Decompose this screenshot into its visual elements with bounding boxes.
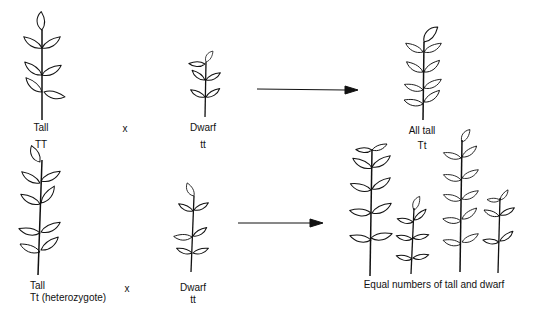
plant-tall-TT	[22, 11, 65, 120]
cross2-offspring-description: Equal numbers of tall and dwarf	[364, 279, 505, 291]
offspring-plant-dwarf-1	[396, 195, 429, 274]
cross1-parent1-phenotype: Tall	[33, 122, 48, 134]
cross1-parent2-genotype: tt	[200, 139, 206, 151]
plant-tall-Tt-heterozygote	[19, 145, 61, 275]
arrow-1-head	[345, 86, 358, 94]
cross1-offspring-genotype: Tt	[418, 140, 427, 152]
arrow-2-head	[310, 219, 323, 227]
plant-dwarf-tt-2	[174, 182, 209, 272]
plant-dwarf-tt	[189, 49, 221, 117]
cross2-parent1-phenotype: Tall	[30, 280, 45, 292]
cross1-parent1-genotype: TT	[35, 139, 47, 151]
diagram-drawing	[0, 0, 540, 314]
offspring-plant-tall-1	[350, 144, 392, 276]
offspring-plant-tall-2	[443, 128, 479, 272]
cross2-cross-symbol: x	[125, 283, 130, 295]
cross2-parent2-genotype: tt	[190, 294, 196, 306]
cross1-offspring-phenotype: All tall	[409, 125, 436, 137]
cross1-cross-symbol: x	[123, 123, 128, 135]
plant-tall-Tt-offspring	[404, 23, 442, 120]
arrow-1-shaft	[257, 89, 345, 90]
cross2-parent2-phenotype: Dwarf	[180, 282, 206, 294]
cross1-parent2-phenotype: Dwarf	[190, 122, 216, 134]
genetics-cross-diagram: Tall TT x Dwarf tt All tall Tt Tall Tt (…	[0, 0, 540, 314]
cross2-parent1-genotype: Tt (heterozygote)	[30, 292, 106, 304]
offspring-plant-dwarf-2	[483, 190, 515, 273]
